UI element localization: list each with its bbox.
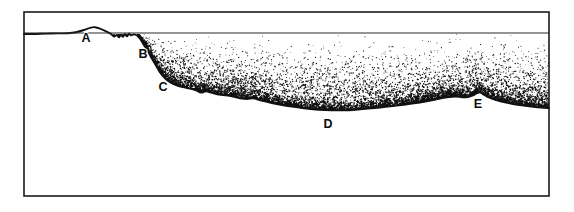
cross-section-figure: ABCDE [0,0,574,212]
point-label-e: E [474,97,482,111]
cross-section-canvas: ABCDE [0,0,574,212]
point-label-c: C [158,80,167,94]
point-label-a: A [81,31,90,45]
point-label-d: D [323,117,332,131]
point-label-b: B [138,47,147,61]
